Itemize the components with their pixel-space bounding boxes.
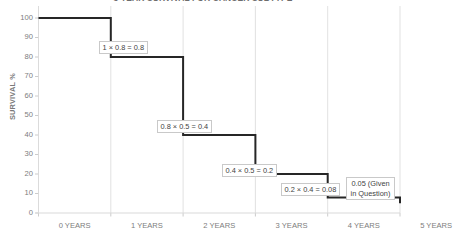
survival-step-line: [39, 18, 401, 203]
y-tick-marks: [35, 18, 39, 213]
step-annotation-3: 0.2 × 0.4 = 0.08: [281, 183, 340, 196]
x-tick-label-5: 5 YEARS: [406, 221, 457, 230]
x-tick-marks: [39, 213, 401, 217]
step-annotation-1: 0.8 × 0.5 = 0.4: [157, 120, 212, 133]
step-annotation-2: 0.4 × 0.5 = 0.2: [222, 164, 277, 177]
step-annotation-4: 0.05 (Given in Question): [346, 177, 395, 200]
step-annotation-0: 1 × 0.8 = 0.8: [99, 41, 148, 54]
